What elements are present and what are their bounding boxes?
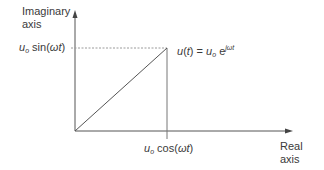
exponent-jwt: jωt [225, 44, 234, 51]
imaginary-axis-label: Imaginary axis [22, 5, 70, 31]
paren-close: ) [61, 41, 65, 53]
cos-projection-label: uo cos(ωt) [144, 142, 193, 158]
imaginary-axis-arrow-icon [73, 10, 78, 18]
phasor-vector [75, 48, 167, 131]
func-sin: sin( [32, 41, 50, 53]
real-axis-label-line2: axis [280, 153, 303, 166]
subscript-o: o [150, 148, 154, 155]
equals-sign: = [194, 45, 207, 57]
real-axis-arrow-icon [285, 129, 293, 134]
real-axis-label: Real axis [280, 140, 303, 166]
subscript-o: o [25, 47, 29, 54]
paren-close: ) [190, 142, 194, 154]
phasor-equation-label: u(t) = uo ejωt [177, 41, 234, 61]
imaginary-axis-label-line1: Imaginary [22, 5, 70, 18]
sin-projection-label: uo sin(ωt) [19, 41, 65, 57]
real-axis-label-line1: Real [280, 140, 303, 153]
imaginary-axis-label-line2: axis [22, 18, 70, 31]
exp-base-e: e [216, 45, 225, 57]
func-cos: cos( [157, 142, 178, 154]
